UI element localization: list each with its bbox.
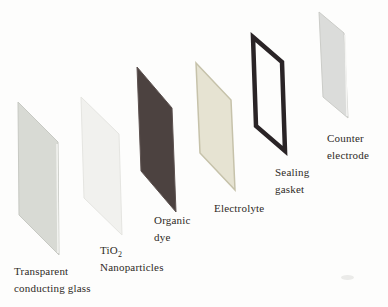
scan-artifact bbox=[341, 275, 354, 280]
tio2-nanoparticles-plate bbox=[81, 97, 122, 235]
organic-dye-plate bbox=[137, 67, 176, 212]
label-organic-dye: Organic dye bbox=[154, 212, 191, 246]
formula-subscript: 2 bbox=[118, 250, 122, 259]
glass-plate-highlight-edge bbox=[57, 144, 58, 253]
label-line: Counter bbox=[327, 130, 369, 147]
label-line: gasket bbox=[275, 181, 309, 198]
label-sealing-gasket: Sealing gasket bbox=[275, 164, 309, 198]
dye-sensitized-solar-cell-diagram: Transparent conducting glass TiO2 Nanopa… bbox=[0, 0, 388, 307]
transparent-conducting-glass-plate bbox=[18, 102, 59, 255]
label-line: dye bbox=[154, 229, 191, 246]
label-electrolyte: Electrolyte bbox=[214, 200, 264, 217]
label-line: Electrolyte bbox=[214, 200, 264, 217]
formula-text: TiO bbox=[100, 244, 118, 256]
sealing-gasket-frame bbox=[253, 37, 285, 151]
counter-electrode-plate bbox=[319, 12, 348, 118]
label-counter-electrode: Counter electrode bbox=[327, 130, 369, 164]
label-line: Sealing bbox=[275, 164, 309, 181]
label-tio2-nanoparticles: TiO2 Nanoparticles bbox=[100, 242, 164, 276]
label-line: electrode bbox=[327, 147, 369, 164]
label-line: conducting glass bbox=[14, 280, 91, 297]
label-transparent-conducting-glass: Transparent conducting glass bbox=[14, 263, 91, 297]
label-line: Nanoparticles bbox=[100, 259, 164, 276]
label-line: Organic bbox=[154, 212, 191, 229]
electrolyte-plate bbox=[196, 63, 235, 190]
label-line: Transparent bbox=[14, 263, 91, 280]
